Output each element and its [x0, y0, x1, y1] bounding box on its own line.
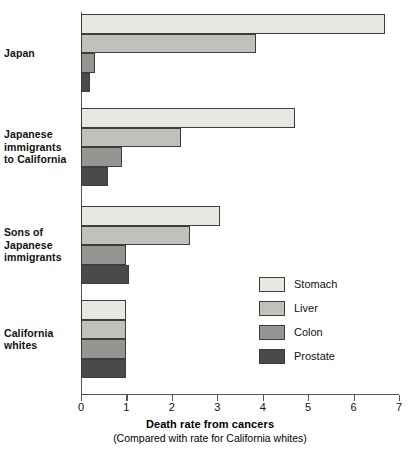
- category-label-line: Japanese: [4, 128, 76, 141]
- legend-item-stomach: Stomach: [259, 272, 337, 296]
- cancer-death-rate-bar-chart: JapanJapaneseimmigrantsto CaliforniaSons…: [0, 0, 420, 455]
- category-label-line: to California: [4, 153, 76, 166]
- x-tick-label: 3: [205, 401, 229, 413]
- x-tick-label: 2: [160, 401, 184, 413]
- bar: [81, 128, 181, 148]
- legend-swatch-colon: [259, 325, 285, 340]
- legend-swatch-stomach: [259, 277, 285, 292]
- legend-swatch-liver: [259, 301, 285, 316]
- legend-item-prostate: Prostate: [259, 344, 337, 368]
- bar: [81, 359, 126, 379]
- bar: [81, 320, 126, 340]
- x-axis-subtitle: (Compared with rate for California white…: [0, 432, 420, 444]
- bar: [81, 339, 126, 359]
- legend: StomachLiverColonProstate: [259, 272, 337, 368]
- x-tick-label: 5: [296, 401, 320, 413]
- x-axis-title: Death rate from cancers: [0, 418, 420, 430]
- category-label-line: California: [4, 327, 76, 340]
- category-label-line: immigrants: [4, 251, 76, 264]
- category-label-line: immigrants: [4, 141, 76, 154]
- category-label-line: whites: [4, 339, 76, 352]
- bar: [81, 167, 108, 187]
- category-label-0: Japan: [4, 47, 76, 60]
- bar: [81, 108, 295, 128]
- bar: [81, 300, 126, 320]
- bar: [81, 245, 126, 265]
- bar: [81, 265, 129, 285]
- legend-item-liver: Liver: [259, 296, 337, 320]
- x-tick-label: 7: [387, 401, 411, 413]
- legend-label: Colon: [294, 326, 323, 338]
- category-label-2: Sons ofJapaneseimmigrants: [4, 226, 76, 264]
- bar: [81, 226, 190, 246]
- x-tick-label: 6: [342, 401, 366, 413]
- bar: [81, 34, 256, 54]
- legend-label: Prostate: [294, 350, 335, 362]
- category-label-line: Japan: [4, 47, 76, 60]
- x-tick-label: 1: [114, 401, 138, 413]
- legend-item-colon: Colon: [259, 320, 337, 344]
- legend-label: Stomach: [294, 278, 337, 290]
- bar: [81, 147, 122, 167]
- bar: [81, 53, 95, 73]
- bar: [81, 73, 90, 93]
- x-tick-label: 4: [251, 401, 275, 413]
- category-label-line: Japanese: [4, 239, 76, 252]
- legend-swatch-prostate: [259, 349, 285, 364]
- category-label-1: Japaneseimmigrantsto California: [4, 128, 76, 166]
- x-axis-line: [81, 394, 399, 395]
- bar: [81, 14, 385, 34]
- bar: [81, 206, 220, 226]
- plot-area: [81, 12, 399, 394]
- legend-label: Liver: [294, 302, 318, 314]
- x-tick-label: 0: [69, 401, 93, 413]
- category-label-3: Californiawhites: [4, 327, 76, 352]
- category-label-line: Sons of: [4, 226, 76, 239]
